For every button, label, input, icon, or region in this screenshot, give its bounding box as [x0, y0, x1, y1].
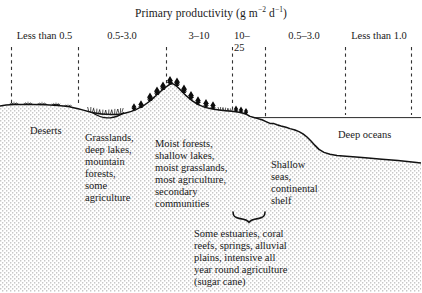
- title-text-mid: d: [266, 7, 275, 19]
- title-exponent-1: −2: [258, 5, 266, 14]
- caption-deep-oceans: Deep oceans: [338, 129, 391, 141]
- band-label-less-than-1-0: Less than 1.0: [336, 30, 422, 42]
- caption-moist-forests: Moist forests, shallow lakes, moist gras…: [155, 138, 227, 210]
- band-label-3-10: 3–10: [170, 30, 228, 42]
- band-label-0-5-3-0-land: 0.5-3.0: [88, 30, 156, 42]
- caption-deserts: Deserts: [30, 125, 62, 137]
- caption-grasslands: Grasslands, deep lakes, mountain forests…: [85, 132, 134, 204]
- band-label-less-than-0-5: Less than 0.5: [0, 30, 89, 42]
- title-text: Primary productivity (g m: [135, 7, 258, 19]
- title-exponent-2: −1: [275, 5, 283, 14]
- caption-shallow-seas: Shallow seas, continental shelf: [271, 159, 318, 207]
- caption-estuaries: Some estuaries, coral reefs, springs, al…: [194, 228, 287, 288]
- figure-root: Primary productivity (g m−2 d−1) Less th…: [0, 0, 422, 293]
- page-title: Primary productivity (g m−2 d−1): [0, 7, 422, 19]
- title-text-end: ): [283, 7, 287, 19]
- band-label-0-5-3-0-sea: 0.5–3.0: [268, 30, 340, 42]
- band-label-10-25: 10– 25: [234, 30, 264, 53]
